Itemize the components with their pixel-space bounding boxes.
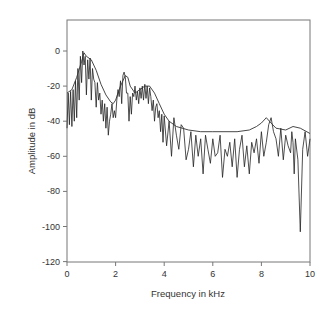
x-tick-label: 0	[64, 269, 69, 279]
x-tick-label: 10	[305, 269, 315, 279]
y-axis-label: Amplitude in dB	[26, 108, 37, 175]
y-tick-label: -40	[47, 116, 60, 126]
y-axis-ticks: 0-20-40-60-80-100-120	[42, 46, 67, 267]
x-tick-label: 2	[113, 269, 118, 279]
y-tick-label: -100	[42, 222, 60, 232]
x-axis-ticks: 0246810	[64, 262, 315, 279]
x-tick-label: 8	[259, 269, 264, 279]
y-tick-label: 0	[55, 46, 60, 56]
y-tick-label: -20	[47, 81, 60, 91]
spectrum-line	[67, 51, 310, 232]
plot-frame	[67, 20, 310, 262]
x-tick-label: 6	[210, 269, 215, 279]
spectrum-chart: 0246810 0-20-40-60-80-100-120 Frequency …	[0, 0, 329, 314]
x-tick-label: 4	[162, 269, 167, 279]
x-axis-label: Frequency in kHz	[151, 288, 225, 299]
y-tick-label: -120	[42, 257, 60, 267]
y-tick-label: -60	[47, 151, 60, 161]
y-tick-label: -80	[47, 186, 60, 196]
